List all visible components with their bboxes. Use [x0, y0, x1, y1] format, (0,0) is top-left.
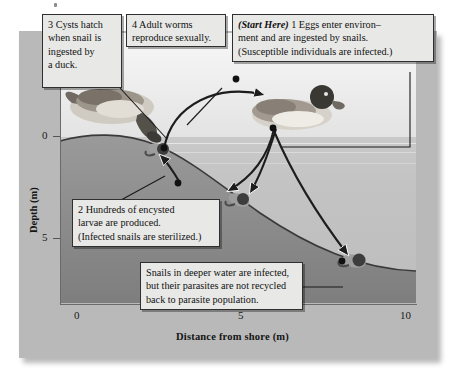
y-tick-5 — [53, 238, 60, 239]
callout-step-2-line3: (Infected snails are sterilized.) — [78, 230, 214, 243]
x-ticklabel-0: 0 — [74, 309, 80, 321]
callout-step-1-line1: 1 Eggs enter environ– — [291, 19, 381, 30]
y-ticklabel-0: 0 — [42, 129, 48, 141]
callout-step-1-prefix: (Start Here) — [238, 19, 289, 30]
deep-note-line2: but their parasites are not recycled — [146, 279, 297, 292]
callout-step-4-line2: reproduce sexually. — [132, 31, 220, 44]
callout-step-2[interactable]: 2 Hundreds of encysted larvae are produc… — [72, 199, 220, 247]
callout-deep-water-note[interactable]: Snails in deeper water are infected, but… — [140, 262, 303, 310]
callout-step-1[interactable]: (Start Here) 1 Eggs enter environ– ment … — [232, 14, 434, 62]
callout-step-3-line2: when snail is — [48, 31, 116, 44]
y-axis-label: Depth (m) — [28, 187, 39, 233]
y-ticklabel-5: 5 — [42, 231, 48, 243]
callout-step-3-line1: 3 Cysts hatch — [48, 18, 116, 31]
x-ticklabel-10: 10 — [400, 309, 411, 321]
deep-note-line3: back to parasite population. — [146, 293, 297, 306]
callout-step-1-line3: (Susceptible individuals are infected.) — [238, 45, 428, 58]
callout-step-3-line4: a duck. — [48, 58, 116, 71]
callout-step-2-line2: larvae are produced. — [78, 216, 214, 229]
parasite-life-cycle-figure: 0 5 Depth (m) 0 5 10 Distance from shore… — [0, 0, 454, 373]
deep-note-line1: Snails in deeper water are infected, — [146, 266, 297, 279]
callout-step-1-line2: ment and are ingested by snails. — [238, 31, 428, 44]
y-tick-0 — [53, 136, 60, 137]
callout-step-4-line1: 4 Adult worms — [132, 18, 220, 31]
print-artifact-dot — [54, 3, 57, 7]
callout-step-3-line3: ingested by — [48, 45, 116, 58]
x-ticklabel-5: 5 — [238, 309, 244, 321]
callout-step-3[interactable]: 3 Cysts hatch when snail is ingested by … — [42, 14, 122, 88]
x-axis-label: Distance from shore (m) — [176, 331, 289, 342]
callout-step-2-line1: 2 Hundreds of encysted — [78, 203, 214, 216]
callout-step-4[interactable]: 4 Adult worms reproduce sexually. — [126, 14, 226, 47]
